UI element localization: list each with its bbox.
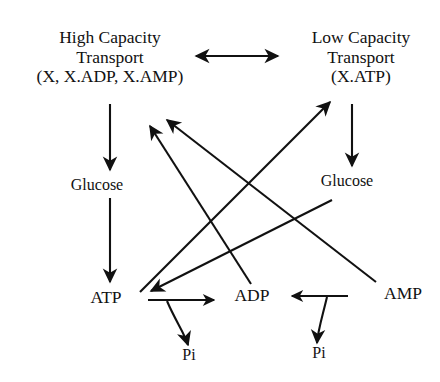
- edge-glucose-right-to-atp: [151, 200, 332, 291]
- node-amp: AMP: [376, 284, 430, 304]
- node-high-capacity-line2: Transport: [10, 48, 210, 68]
- node-pi-right: Pi: [302, 344, 336, 362]
- node-high-capacity-transport: High Capacity Transport (X, X.ADP, X.AMP…: [10, 28, 210, 87]
- edge-amp-pi-branch: [317, 297, 327, 343]
- node-low-capacity-transport: Low Capacity Transport (X.ATP): [288, 28, 434, 87]
- edge-atp-to-low-capacity: [140, 102, 330, 292]
- node-high-capacity-line1: High Capacity: [10, 28, 210, 48]
- node-atp: ATP: [80, 288, 132, 308]
- edge-adp-to-high-capacity: [150, 126, 251, 284]
- node-adp: ADP: [226, 286, 278, 306]
- node-glucose-right: Glucose: [306, 172, 388, 190]
- node-high-capacity-line3: (X, X.ADP, X.AMP): [10, 67, 210, 87]
- node-low-capacity-line3: (X.ATP): [288, 67, 434, 87]
- diagram-canvas: High Capacity Transport (X, X.ADP, X.AMP…: [0, 0, 440, 382]
- node-pi-left: Pi: [172, 346, 206, 364]
- node-low-capacity-line1: Low Capacity: [288, 28, 434, 48]
- edge-atp-pi-branch: [167, 301, 188, 345]
- node-low-capacity-line2: Transport: [288, 48, 434, 68]
- node-glucose-left: Glucose: [56, 176, 138, 194]
